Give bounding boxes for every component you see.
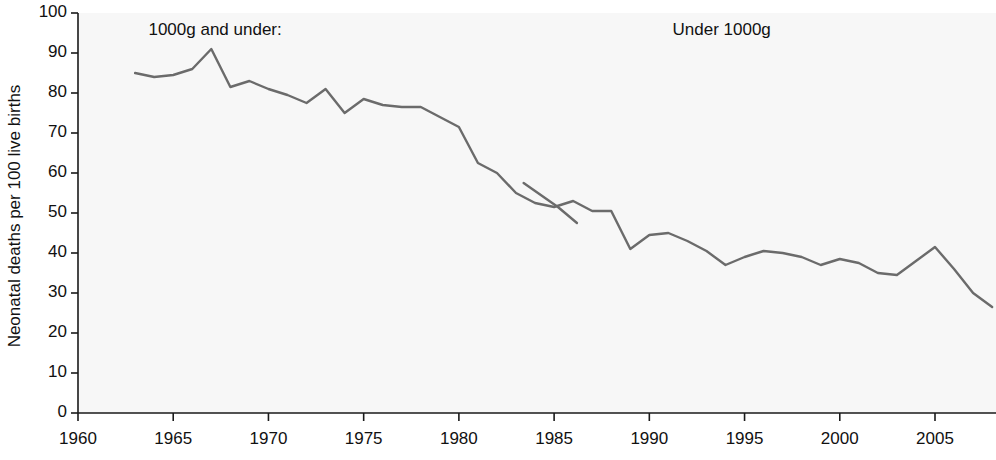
chart-annotation-label: Under 1000g [673, 20, 771, 40]
x-tick-label: 1975 [329, 429, 399, 449]
axes [71, 13, 996, 421]
x-tick-label: 1990 [614, 429, 684, 449]
chart-plot-area [0, 0, 996, 460]
y-tick-label: 90 [23, 42, 67, 62]
y-tick-label: 40 [23, 242, 67, 262]
y-tick-label: 0 [23, 402, 67, 422]
x-tick-label: 1965 [138, 429, 208, 449]
chart-annotation-label: 1000g and under: [148, 20, 281, 40]
y-tick-label: 100 [23, 2, 67, 22]
y-tick-label: 20 [23, 322, 67, 342]
y-tick-label: 10 [23, 362, 67, 382]
y-tick-label: 80 [23, 82, 67, 102]
data-line-series-0 [135, 49, 992, 307]
x-tick-label: 1980 [424, 429, 494, 449]
x-tick-label: 1995 [710, 429, 780, 449]
chart-container: Neonatal deaths per 100 live births 0102… [0, 0, 996, 460]
y-axis-title-text: Neonatal deaths per 100 live births [5, 85, 25, 348]
data-series-group [135, 49, 992, 307]
x-tick-label: 2000 [805, 429, 875, 449]
y-tick-label: 30 [23, 282, 67, 302]
x-tick-label: 1985 [519, 429, 589, 449]
x-tick-label: 2005 [900, 429, 970, 449]
y-tick-label: 50 [23, 202, 67, 222]
y-tick-label: 60 [23, 162, 67, 182]
x-tick-label: 1960 [43, 429, 113, 449]
y-tick-label: 70 [23, 122, 67, 142]
x-tick-label: 1970 [233, 429, 303, 449]
